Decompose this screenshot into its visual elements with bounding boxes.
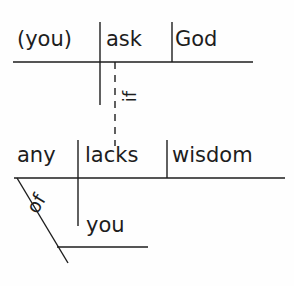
word-preposition-object: you (86, 215, 125, 236)
word-subordinate-verb: lacks (85, 145, 138, 166)
word-conjunction-if: if (119, 91, 140, 102)
word-main-verb: ask (106, 29, 142, 50)
preposition-slant-line (17, 178, 68, 263)
word-main-subject: (you) (17, 29, 72, 50)
word-subordinate-direct-object: wisdom (172, 145, 253, 166)
word-main-direct-object: God (175, 29, 217, 50)
word-subordinate-subject: any (17, 145, 56, 166)
sentence-diagram: (you) ask God if any lacks wisdom of you (0, 0, 294, 286)
